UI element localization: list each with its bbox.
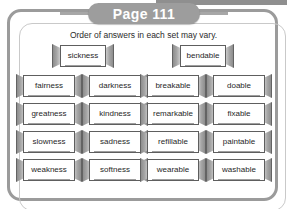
banner-card: kindness: [89, 103, 141, 125]
banner-word: breakable: [152, 81, 194, 96]
banner-card: remarkable: [147, 103, 199, 125]
banner-word: sadness: [94, 137, 136, 152]
banner-flange-right-icon: [105, 44, 114, 68]
banner-word: doable: [218, 81, 260, 96]
word-banner: washable: [206, 158, 272, 182]
banner-card: washable: [213, 159, 265, 181]
banner-word: wearable: [152, 165, 194, 180]
header-banner-bendable: bendable: [172, 44, 234, 68]
instruction-text: Order of answers in each set may vary.: [0, 30, 287, 40]
word-banner: remarkable: [140, 102, 206, 126]
banner-word: remarkable: [152, 109, 194, 124]
word-banner: fixable: [206, 102, 272, 126]
banner-card: greatness: [23, 103, 75, 125]
banner-word: washable: [218, 165, 260, 180]
banner-card: fairness: [23, 75, 75, 97]
word-banner: greatness: [16, 102, 82, 126]
word-banner: refillable: [140, 130, 206, 154]
banner-word: fixable: [218, 109, 260, 124]
word-banner: slowness: [16, 130, 82, 154]
banner-word: paintable: [218, 137, 260, 152]
banner-card: sadness: [89, 131, 141, 153]
banner-word: softness: [94, 165, 136, 180]
banner-word: bendable: [185, 51, 222, 66]
banner-card: weakness: [23, 159, 75, 181]
banner-word: fairness: [28, 81, 70, 96]
word-banner: softness: [82, 158, 148, 182]
word-banner: paintable: [206, 130, 272, 154]
banner-card: bendable: [180, 45, 226, 67]
banner-card: darkness: [89, 75, 141, 97]
banner-card: doable: [213, 75, 265, 97]
word-banner: wearable: [140, 158, 206, 182]
banner-card: refillable: [147, 131, 199, 153]
banner-word: greatness: [28, 109, 70, 124]
banner-word: weakness: [28, 165, 70, 180]
pill-tail-right: [198, 12, 228, 15]
banner-card: paintable: [213, 131, 265, 153]
banner-word: kindness: [94, 109, 136, 124]
word-banner: breakable: [140, 74, 206, 98]
banner-card: fixable: [213, 103, 265, 125]
word-banner: darkness: [82, 74, 148, 98]
word-banner: fairness: [16, 74, 82, 98]
word-banner: kindness: [82, 102, 148, 126]
banner-flange-right-icon: [225, 44, 234, 68]
banner-card: slowness: [23, 131, 75, 153]
banner-word: sickness: [65, 51, 102, 66]
banner-word: slowness: [28, 137, 70, 152]
header-banner-sickness: sickness: [52, 44, 114, 68]
banner-word: refillable: [152, 137, 194, 152]
banner-card: breakable: [147, 75, 199, 97]
banner-word: darkness: [94, 81, 136, 96]
page-title-badge: Page 111: [88, 3, 200, 24]
banner-card: softness: [89, 159, 141, 181]
word-banner: weakness: [16, 158, 82, 182]
banner-card: wearable: [147, 159, 199, 181]
banner-card: sickness: [60, 45, 106, 67]
word-banner: doable: [206, 74, 272, 98]
word-banner: sadness: [82, 130, 148, 154]
pill-tail-left: [60, 12, 90, 15]
